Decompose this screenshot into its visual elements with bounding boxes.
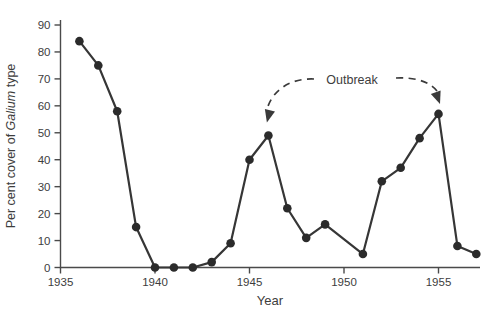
y-axis-tick-label: 40 <box>38 154 51 166</box>
x-axis-tick-label: 1955 <box>426 276 452 288</box>
outbreak-arrow-right <box>396 78 439 94</box>
outbreak-arrowhead-left <box>262 109 275 124</box>
y-axis-tick-label: 70 <box>38 73 51 85</box>
data-point <box>434 110 443 119</box>
data-point <box>283 204 292 213</box>
y-axis-tick-label: 20 <box>38 208 51 220</box>
data-point <box>189 263 198 272</box>
data-point <box>113 107 122 116</box>
y-axis-tick-label: 80 <box>38 46 51 58</box>
data-point <box>302 234 311 243</box>
chart-canvas: 193519401945195019550102030405060708090 … <box>0 0 496 323</box>
x-axis-title: Year <box>257 293 284 308</box>
plot-area: 193519401945195019550102030405060708090 <box>38 19 481 288</box>
data-point <box>472 250 481 259</box>
data-point <box>453 242 462 251</box>
data-point <box>151 263 160 272</box>
data-point <box>321 220 330 229</box>
data-point <box>94 61 103 70</box>
x-axis-tick-label: 1950 <box>331 276 357 288</box>
y-axis-tick-label: 0 <box>44 262 50 274</box>
data-point <box>170 263 179 272</box>
y-axis-tick-label: 30 <box>38 181 51 193</box>
outbreak-label: Outbreak <box>326 73 378 87</box>
y-axis-title: Per cent cover of Galium type <box>4 64 18 229</box>
data-point <box>378 177 387 186</box>
galium-cover-line-chart: 193519401945195019550102030405060708090 … <box>0 0 496 323</box>
y-axis-title-suffix: type <box>4 64 18 91</box>
y-axis-tick-label: 90 <box>38 19 51 31</box>
y-axis-tick-label: 50 <box>38 127 51 139</box>
x-axis-tick-label: 1940 <box>142 276 168 288</box>
y-axis-tick-label: 60 <box>38 100 51 112</box>
data-point <box>359 250 368 259</box>
x-axis-tick-label: 1945 <box>237 276 263 288</box>
data-point <box>264 131 273 140</box>
data-line <box>79 41 476 267</box>
data-point <box>75 37 84 46</box>
y-axis-title-prefix: Per cent cover of <box>4 130 18 228</box>
data-point <box>226 239 235 248</box>
outbreak-arrowhead-right <box>431 90 445 105</box>
data-point <box>207 258 216 267</box>
data-point <box>396 164 405 173</box>
outbreak-arrow-left <box>267 79 314 110</box>
y-axis-tick-label: 10 <box>38 235 51 247</box>
data-point <box>245 155 254 164</box>
data-point <box>415 134 424 143</box>
data-point <box>132 223 141 232</box>
x-axis-tick-label: 1935 <box>48 276 74 288</box>
y-axis-title-italic: Galium <box>4 91 18 131</box>
